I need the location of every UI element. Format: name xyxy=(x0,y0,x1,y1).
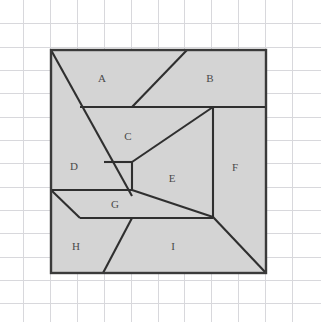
region-label-a: A xyxy=(98,72,106,84)
region-label-e: E xyxy=(169,172,176,184)
region-label-d: D xyxy=(70,160,78,172)
figure-canvas: ABCDEFGHI xyxy=(0,0,321,322)
region-label-f: F xyxy=(232,161,238,173)
region-label-i: I xyxy=(171,240,175,252)
region-label-b: B xyxy=(206,72,213,84)
dissection-diagram: ABCDEFGHI xyxy=(0,0,321,322)
region-label-h: H xyxy=(72,240,80,252)
region-label-c: C xyxy=(124,130,131,142)
region-label-g: G xyxy=(111,198,119,210)
